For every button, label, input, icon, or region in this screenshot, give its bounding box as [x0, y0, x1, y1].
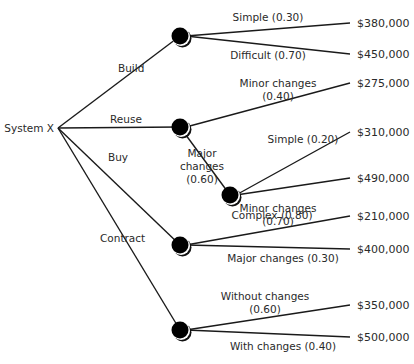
outcome-label: Major changes (0.30) [227, 252, 339, 264]
outcome-label-line: With changes (0.40) [230, 340, 336, 352]
outcome-value: $310,000 [357, 126, 410, 139]
outcome-edge [186, 23, 350, 36]
option-label-buy: Buy [108, 151, 128, 163]
outcome-edge [186, 245, 350, 249]
outcome-edge [236, 178, 350, 195]
root-label: System X [4, 122, 54, 134]
outcome-value: $450,000 [357, 48, 410, 61]
outcome-label-line: Minor changes [240, 77, 317, 89]
major-changes-label-line: changes [180, 160, 224, 172]
option-label-reuse: Reuse [110, 113, 142, 125]
outcome-label-line: Minor changes [240, 202, 317, 214]
chance-node-icon [172, 322, 192, 342]
outcome-value: $210,000 [357, 210, 410, 223]
outcome-label-line: (0.40) [262, 90, 294, 102]
major-changes-label: Majorchanges(0.60) [180, 147, 224, 185]
outcome-label: Simple (0.20) [268, 133, 339, 145]
outcome-label: Minor changes(0.40) [240, 77, 317, 102]
outcome-edge [186, 330, 350, 337]
option-edge-reuse [58, 127, 180, 128]
outcome-value: $275,000 [357, 77, 410, 90]
outcome-label-line: Major changes (0.30) [227, 252, 339, 264]
outcome-label-line: (0.70) [262, 215, 294, 227]
outcome-label: Simple (0.30) [233, 11, 304, 23]
option-label-contract: Contract [100, 232, 145, 244]
chance-node-icon [222, 187, 242, 207]
outcome-label-line: Simple (0.30) [233, 11, 304, 23]
outcome-label-line: (0.60) [249, 303, 281, 315]
chance-node-icon [172, 119, 192, 139]
decision-tree-diagram: System X BuildReuseBuyContractMajorchang… [0, 0, 414, 364]
outcome-label: With changes (0.40) [230, 340, 336, 352]
outcome-label-line: Difficult (0.70) [230, 49, 306, 61]
chance-node-icon [172, 28, 192, 48]
outcome-label: Difficult (0.70) [230, 49, 306, 61]
outcome-value: $380,000 [357, 17, 410, 30]
labels-layer: System X BuildReuseBuyContractMajorchang… [4, 11, 409, 352]
outcome-value: $500,000 [357, 331, 410, 344]
outcome-label: Without changes(0.60) [221, 290, 310, 315]
outcome-value: $490,000 [357, 172, 410, 185]
outcome-value: $400,000 [357, 243, 410, 256]
option-edge-buy [58, 128, 180, 245]
chance-node-icon [172, 237, 192, 257]
outcome-label-line: Simple (0.20) [268, 133, 339, 145]
option-label-build: Build [118, 62, 144, 74]
major-changes-label-line: Major [187, 147, 217, 159]
major-changes-label-line: (0.60) [186, 173, 218, 185]
outcome-label-line: Without changes [221, 290, 310, 302]
outcome-value: $350,000 [357, 299, 410, 312]
